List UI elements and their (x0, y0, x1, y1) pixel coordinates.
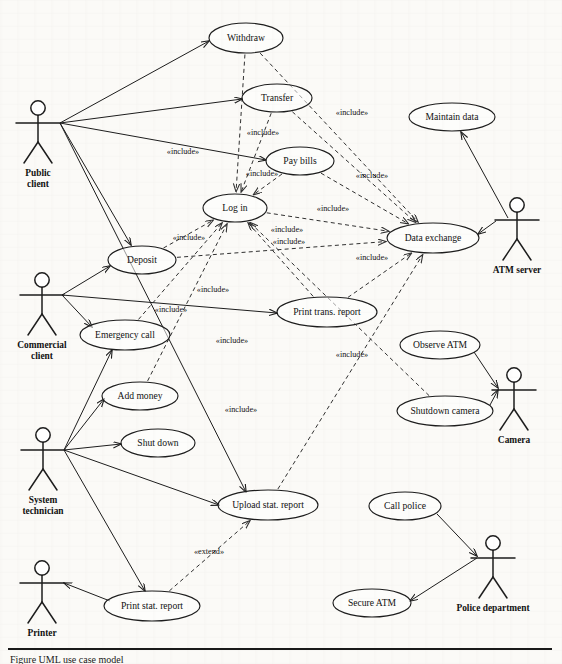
use-case-secure-atm[interactable]: Secure ATM (333, 589, 411, 617)
use-case-observe-atm[interactable]: Observe ATM (400, 331, 480, 359)
use-case-label: Deposit (127, 254, 157, 265)
stereotype-label-upload-stat-includes-data-exchange: «include» (336, 350, 368, 359)
diagram-canvas: WithdrawTransferPay billsLog inDepositEm… (0, 0, 562, 664)
stereotype-label-transfer-includes-log-in: «include» (247, 128, 279, 137)
use-case-shutdown-camera[interactable]: Shutdown camera (397, 396, 493, 426)
include-transfer-includes-log-in (241, 113, 271, 192)
actor-leg-right (42, 602, 56, 623)
use-case-withdraw[interactable]: Withdraw (209, 23, 283, 53)
use-case-deposit[interactable]: Deposit (108, 246, 176, 274)
use-case-label: Print stat. report (121, 600, 183, 611)
use-case-label: Call police (384, 500, 426, 511)
stereotype-label-deposit-includes-log-in: «include» (173, 233, 205, 242)
actor-head-icon (35, 273, 49, 287)
actor-leg-left (479, 577, 493, 598)
use-case-transfer[interactable]: Transfer (242, 84, 312, 112)
actor-leg-left (29, 469, 43, 490)
association-atm-server-to-maintain-data (461, 132, 508, 218)
actor-label: Police department (456, 603, 530, 613)
figure-caption: Figure UML use case model (10, 654, 554, 664)
actor-leg-right (38, 142, 52, 163)
actor-label-line2: technician (22, 506, 64, 516)
include-withdraw-includes-log-in (236, 54, 245, 191)
stereotype-label-transfer-includes-data-exchange: «include» (356, 171, 388, 180)
use-case-log-in[interactable]: Log in (203, 194, 267, 222)
use-case-print-stat-report[interactable]: Print stat. report (104, 591, 200, 621)
stereotype-label-layer: «include»«include»«include»«include»«inc… (155, 108, 388, 556)
actor-public-client[interactable]: Publicclient (16, 101, 60, 189)
stereotype-label-print-stat-extends-upload-stat: «extend» (194, 547, 224, 556)
actor-head-icon (507, 368, 521, 382)
actor-printer[interactable]: Printer (20, 561, 64, 638)
actor-head-icon (35, 561, 49, 575)
actor-leg-right (517, 239, 531, 260)
caption-divider (8, 648, 552, 650)
stereotype-label-print-trans-includes-data-exchange: «include» (356, 253, 388, 262)
actor-head-icon (36, 428, 50, 442)
actor-layer: PublicclientCommercialclientSystemtechni… (16, 101, 541, 638)
association-public-client-to-deposit (60, 123, 131, 245)
use-case-call-police[interactable]: Call police (369, 492, 441, 520)
use-case-label: Withdraw (227, 32, 265, 43)
use-case-maintain-data[interactable]: Maintain data (409, 103, 495, 131)
use-case-label: Emergency call (95, 329, 155, 340)
stereotype-label-pay-bills-includes-data-exchange: «include» (317, 204, 349, 213)
stereotype-label-print-trans-includes-log-in: «include» (197, 285, 229, 294)
stereotype-label-pay-bills-includes-log-in: «include» (246, 169, 278, 178)
association-atm-server-to-data-exchange (478, 221, 496, 234)
actor-police-department[interactable]: Police department (456, 536, 530, 613)
use-case-label: Data exchange (405, 232, 462, 243)
actor-atm-server[interactable]: ATM server (493, 198, 542, 275)
use-case-label: Observe ATM (413, 339, 468, 350)
association-commercial-client-to-emergency-call (62, 295, 92, 327)
uml-use-case-diagram: WithdrawTransferPay billsLog inDepositEm… (0, 0, 562, 664)
association-system-technician-to-shut-down (64, 444, 121, 450)
association-public-client-to-transfer (60, 99, 242, 123)
actor-commercial-client[interactable]: Commercialclient (17, 273, 67, 361)
use-case-label: Print trans. report (293, 306, 361, 317)
association-system-technician-to-add-money (64, 399, 104, 450)
use-case-label: Shutdown camera (410, 405, 480, 416)
actor-label: Commercial (17, 340, 67, 350)
use-case-upload-stat-report[interactable]: Upload stat. report (218, 490, 318, 520)
include-upload-stat-includes-data-exchange (278, 255, 423, 489)
use-case-label: Upload stat. report (232, 499, 304, 510)
association-public-client-to-pay-bills (60, 123, 266, 160)
actor-label: Camera (498, 435, 531, 445)
actor-leg-left (28, 602, 42, 623)
actor-leg-right (493, 577, 507, 598)
stereotype-label-withdraw-includes-data-exchange: «include» (336, 108, 368, 117)
association-police-to-call-police (437, 514, 477, 556)
actor-label: ATM server (493, 265, 542, 275)
actor-label: Printer (27, 628, 56, 638)
use-case-layer: WithdrawTransferPay billsLog inDepositEm… (80, 23, 495, 621)
stereotype-label-log-in-includes-data-exchange: «include» (271, 225, 303, 234)
association-police-to-secure-atm (410, 558, 477, 601)
actor-leg-left (24, 142, 38, 163)
actor-label-line2: client (27, 179, 50, 189)
actor-leg-right (42, 314, 56, 335)
actor-leg-left (500, 409, 514, 430)
actor-head-icon (510, 198, 524, 212)
actor-leg-right (514, 409, 528, 430)
include-withdraw-includes-data-exchange (260, 53, 418, 222)
actor-head-icon (486, 536, 500, 550)
actor-label-line2: client (31, 351, 54, 361)
use-case-label: Transfer (261, 92, 294, 103)
use-case-emergency-call[interactable]: Emergency call (80, 320, 170, 350)
use-case-print-trans-report[interactable]: Print trans. report (277, 297, 377, 327)
actor-system-technician[interactable]: Systemtechnician (21, 428, 65, 516)
use-case-label: Maintain data (425, 111, 479, 122)
use-case-label: Log in (222, 202, 248, 213)
use-case-data-exchange[interactable]: Data exchange (387, 223, 479, 253)
actor-head-icon (31, 101, 45, 115)
association-system-technician-to-upload-stat-report (64, 450, 219, 505)
actor-label: System (29, 495, 58, 505)
use-case-add-money[interactable]: Add money (102, 382, 178, 410)
association-commercial-client-to-deposit (62, 266, 110, 295)
actor-leg-left (28, 314, 42, 335)
use-case-shut-down[interactable]: Shut down (121, 429, 195, 457)
stereotype-label-withdraw-includes-log-in: «include» (167, 147, 199, 156)
actor-camera[interactable]: Camera (492, 368, 536, 445)
stereotype-label-add-money-includes-log-in: «include» (216, 336, 248, 345)
